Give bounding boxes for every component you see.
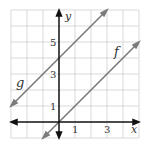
x-tick-1: 1	[72, 124, 78, 135]
line-f-label: f	[113, 44, 121, 59]
line-g-label: g	[16, 75, 24, 90]
y-tick-3: 3	[50, 69, 56, 80]
arrow-up-icon	[57, 10, 62, 16]
x-axis-label: x	[131, 123, 138, 136]
y-axis-label: y	[64, 10, 72, 23]
x-tick-3: 3	[104, 124, 110, 135]
arrow-left-icon	[11, 120, 17, 125]
coordinate-plane: y x 1 3 1 3 5 g f	[0, 0, 147, 143]
grid	[11, 10, 139, 138]
y-tick-5: 5	[50, 37, 56, 48]
arrow-down-icon	[57, 132, 62, 138]
y-tick-1: 1	[50, 101, 56, 112]
